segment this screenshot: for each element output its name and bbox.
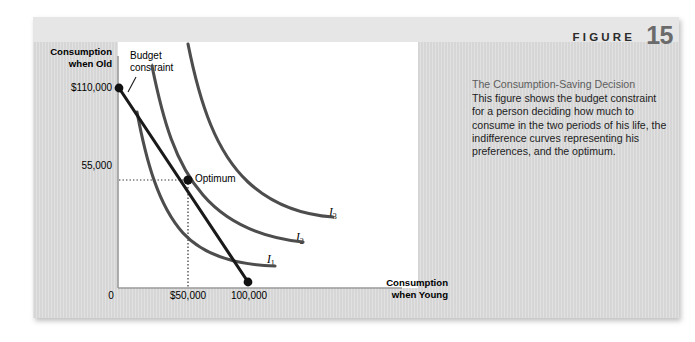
budget-constraint-line	[119, 88, 248, 282]
plot-graphics	[0, 0, 695, 342]
budget-constraint-leader-line	[128, 77, 136, 92]
indifference-curve-i2	[152, 66, 303, 242]
indifference-curve-i3	[188, 44, 333, 217]
budget-endpoint-marker-top	[115, 84, 124, 93]
budget-endpoint-marker-bottom	[244, 278, 253, 287]
figure-root: FIGURE 15 The Consumption-Saving Decisio…	[0, 0, 695, 342]
optimum-point-marker	[183, 175, 192, 184]
